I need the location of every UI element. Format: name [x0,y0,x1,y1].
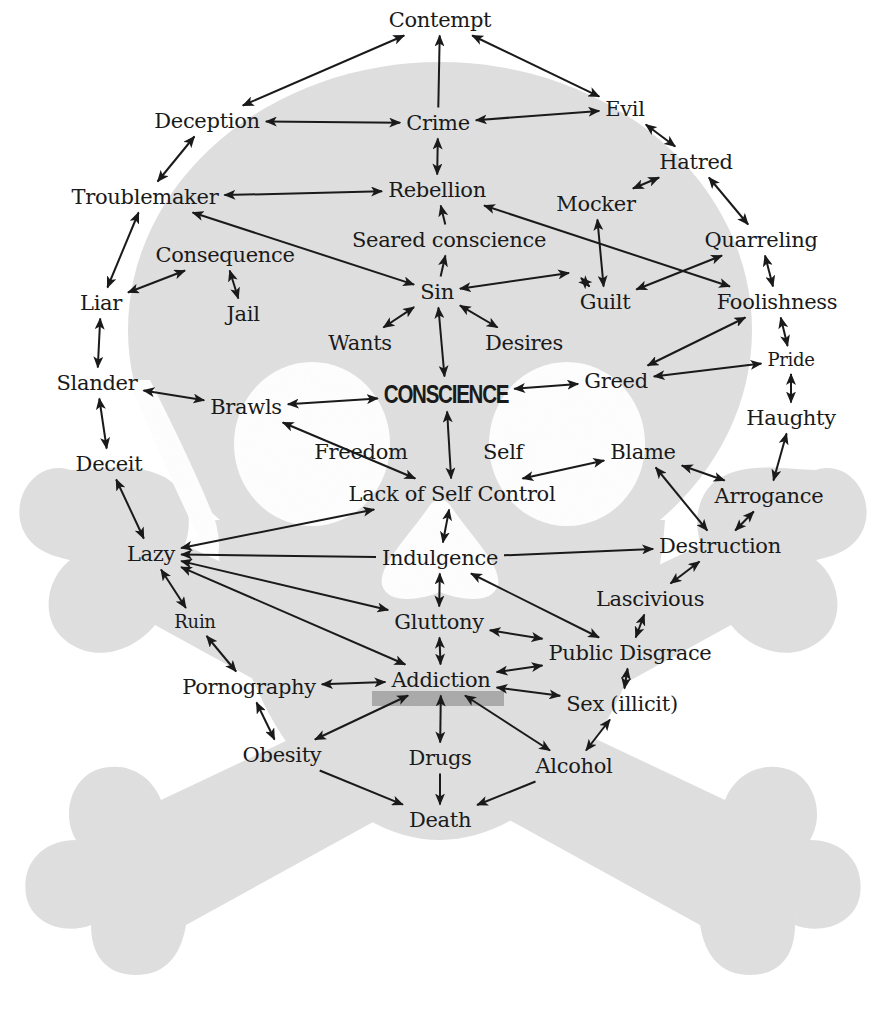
arrow-pornography-addiction [322,682,386,684]
node-hatred: Hatred [659,152,732,173]
arrow-arrogance-destruction [735,512,754,531]
node-lack-of-self-control: Lack of Self Control [349,484,556,505]
arrow-seared-rebellion [441,206,446,225]
node-sex-illicit: Sex (illicit) [566,694,678,715]
node-death: Death [409,810,471,831]
arrow-indulgence-gluttony [439,574,440,607]
node-pride: Pride [767,351,814,369]
arrow-mocker-guilt [597,220,603,287]
arrow-gluttony-addiction [440,638,441,665]
arrow-sin-wants [383,307,414,327]
node-drugs: Drugs [408,748,471,769]
arrow-sex-alcohol [586,720,610,751]
arrow-lazy-ruin [161,570,186,609]
node-public-disgrace: Public Disgrace [549,643,712,664]
node-freedom: Freedom [314,442,407,463]
arrow-lack-lazy [181,510,374,549]
arrow-consequence-jail [230,271,239,299]
arrow-crime-evil [476,111,600,120]
node-sin: Sin [420,282,454,303]
node-rebellion: Rebellion [388,180,486,201]
node-evil: Evil [605,99,644,120]
arrow-lack-blame [523,461,605,479]
node-blame: Blame [610,442,676,463]
arrow-indulgence-destruction [504,549,653,555]
arrow-sin-seared [441,256,446,277]
node-alcohol: Alcohol [535,756,612,777]
arrow-haughty-arrogance [773,434,786,481]
arrow-addiction-obesity [315,696,408,740]
arrow-foolishness-greed [648,318,746,366]
node-lazy: Lazy [127,544,175,565]
conscience-skull-diagram: Contempt Deception Crime Evil Hatred Tro… [0,0,886,1009]
arrow-greed-pride [654,364,762,377]
node-haughty: Haughty [746,408,836,429]
node-addiction: Addiction [391,670,490,691]
node-lascivious: Lascivious [596,589,704,610]
arrow-lazy-gluttony [181,561,388,610]
arrow-addiction-alcohol [465,696,550,751]
node-pornography: Pornography [182,677,316,698]
node-destruction: Destruction [659,536,781,557]
arrow-liar-slander [98,319,100,368]
arrow-conscience-greed [514,384,578,389]
node-self: Self [483,442,523,463]
node-gluttony: Gluttony [394,612,484,633]
node-liar: Liar [80,293,122,314]
arrow-sin-seared-right [460,273,569,289]
arrow-lack-indulgence [443,510,449,543]
node-brawls: Brawls [210,397,282,418]
node-quarreling: Quarreling [704,230,817,251]
node-greed: Greed [584,371,648,392]
arrow-deception-crime [266,122,400,123]
node-indulgence: Indulgence [382,548,498,569]
arrow-slander-deceit [99,399,106,449]
arrow-troublemaker-liar [107,213,138,288]
arrow-troublemaker-rebellion [224,191,382,195]
node-jail: Jail [226,304,259,325]
arrow-seared-right-guilt [581,278,590,287]
arrow-destruction-lascivious [671,562,700,584]
node-troublemaker: Troublemaker [72,187,219,208]
arrow-quarreling-foolishness [765,256,773,287]
arrow-consequence-liar [128,271,185,293]
arrow-evil-hatred [646,125,675,147]
arrow-blame-arrogance [682,466,725,481]
arrow-crime-rebellion [437,139,438,175]
node-ruin: Ruin [174,613,215,631]
node-obesity: Obesity [243,745,322,766]
arrow-pornography-obesity [257,703,275,740]
node-foolishness: Foolishness [717,292,838,313]
arrow-public-sex [624,669,627,689]
node-contempt: Contempt [389,10,492,31]
node-mocker: Mocker [556,194,635,215]
node-arrogance: Arrogance [715,486,824,507]
arrow-blame-destruction [656,468,708,531]
node-slander: Slander [57,373,138,394]
arrow-lascivious-public [636,615,645,638]
arrow-foolishness-pride [781,318,788,347]
arrow-gluttony-public [490,630,543,639]
node-guilt: Guilt [580,292,631,313]
node-crime: Crime [406,113,470,134]
arrow-addiction-sex [497,687,561,695]
arrow-deceit-lazy [116,480,144,539]
arrow-contempt-evil [472,36,599,97]
arrow-brawls-conscience [288,398,378,404]
arrow-addiction-drugs [440,696,441,743]
arrow-hatred-mocker [633,178,659,189]
arrow-crime-contempt [438,36,439,108]
arrow-hatred-quarreling [709,178,748,225]
arrow-deception-troublemaker [158,137,195,182]
arrow-slander-brawls [144,391,205,401]
arrow-alcohol-death [477,782,535,806]
node-wants: Wants [328,333,392,354]
arrow-indulgence-public [471,574,599,638]
node-deceit: Deceit [76,454,143,475]
arrow-obesity-death [320,771,403,805]
arrow-conscience-lack [447,412,451,479]
arrow-sin-desires [460,305,498,327]
arrow-ruin-pornography [207,636,237,672]
node-deception: Deception [154,111,260,132]
arrow-deception-contempt [243,36,404,106]
